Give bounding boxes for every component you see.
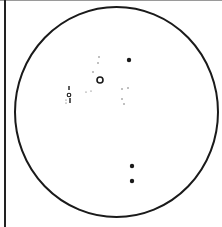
- tick-mark: [68, 86, 69, 90]
- small-dot-mark: [97, 62, 98, 63]
- field-of-view-diagram: [0, 0, 222, 227]
- small-ring-mark: [67, 93, 71, 97]
- marks-group: [65, 56, 134, 183]
- small-dot-mark: [123, 103, 124, 104]
- small-dot-mark: [90, 90, 91, 91]
- small-dot-mark: [127, 87, 128, 88]
- small-dot-mark: [65, 102, 66, 103]
- small-dot-mark: [121, 98, 122, 99]
- large-dot-mark: [127, 58, 131, 62]
- diagram-frame: [0, 0, 222, 227]
- large-dot-mark: [130, 164, 134, 168]
- large-dot-mark: [130, 179, 134, 183]
- small-dot-mark: [85, 91, 86, 92]
- small-dot-mark: [65, 99, 66, 100]
- small-dot-mark: [121, 88, 122, 89]
- small-dot-mark: [92, 71, 93, 72]
- tick-mark: [69, 98, 70, 103]
- ring-mark: [97, 77, 103, 83]
- field-boundary-circle: [15, 7, 218, 217]
- small-dot-mark: [98, 56, 99, 57]
